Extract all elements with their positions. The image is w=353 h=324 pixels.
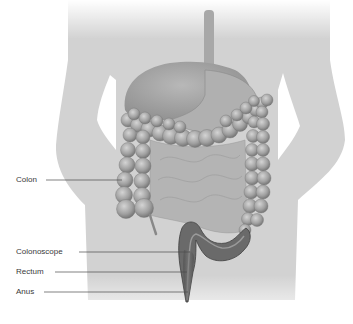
rectum-label: Rectum bbox=[16, 267, 44, 277]
colonoscope-label: Colonoscope bbox=[16, 247, 63, 257]
colon-label: Colon bbox=[16, 175, 37, 185]
anus-label: Anus bbox=[16, 287, 34, 297]
digestive-system-illustration bbox=[0, 0, 353, 324]
esophagus bbox=[204, 10, 214, 70]
anatomy-diagram: Colon Colonoscope Rectum Anus bbox=[0, 0, 353, 324]
